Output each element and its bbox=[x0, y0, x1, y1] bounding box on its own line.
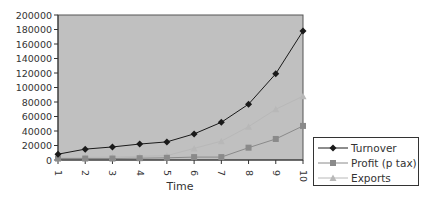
legend: Turnover Profit (p tax) Exports bbox=[313, 137, 419, 186]
square-marker-icon bbox=[318, 158, 348, 168]
x-tick-label: 8 bbox=[244, 170, 255, 176]
legend-item-exports: Exports bbox=[318, 170, 418, 185]
data-point bbox=[191, 154, 197, 160]
x-tick-label: 5 bbox=[162, 170, 173, 176]
y-tick-label: 0 bbox=[46, 155, 52, 166]
y-tick-label: 20000 bbox=[22, 140, 52, 151]
y-tick-label: 80000 bbox=[22, 97, 52, 108]
x-tick-label: 10 bbox=[298, 170, 309, 182]
y-tick-label: 100000 bbox=[16, 82, 52, 93]
x-axis-title: Time bbox=[166, 180, 194, 193]
x-tick-label: 3 bbox=[107, 170, 118, 176]
y-axis: 0200004000060000800001000001200001400001… bbox=[16, 10, 58, 166]
data-point bbox=[137, 155, 143, 161]
y-tick-label: 60000 bbox=[22, 111, 52, 122]
x-axis: 12345678910 bbox=[53, 160, 309, 182]
legend-label: Profit (p tax) bbox=[351, 157, 417, 169]
x-tick-label: 2 bbox=[80, 170, 91, 176]
y-tick-label: 140000 bbox=[16, 53, 52, 64]
x-tick-label: 9 bbox=[271, 170, 282, 176]
x-tick-label: 1 bbox=[53, 170, 64, 176]
y-tick-label: 180000 bbox=[16, 24, 52, 35]
data-point bbox=[218, 154, 224, 160]
data-point bbox=[109, 156, 115, 162]
triangle-marker-icon bbox=[318, 173, 348, 183]
data-point bbox=[164, 155, 170, 161]
x-tick-label: 4 bbox=[135, 170, 146, 176]
y-tick-label: 40000 bbox=[22, 126, 52, 137]
y-tick-label: 160000 bbox=[16, 39, 52, 50]
legend-label: Exports bbox=[351, 172, 391, 184]
data-point bbox=[82, 156, 88, 162]
legend-label: Turnover bbox=[351, 142, 397, 154]
diamond-marker-icon bbox=[318, 143, 348, 153]
data-point bbox=[273, 136, 279, 142]
legend-item-profit: Profit (p tax) bbox=[318, 155, 418, 170]
y-tick-label: 120000 bbox=[16, 68, 52, 79]
data-point bbox=[246, 145, 252, 151]
data-point bbox=[300, 123, 306, 129]
y-tick-label: 200000 bbox=[16, 10, 52, 21]
x-tick-label: 7 bbox=[216, 170, 227, 176]
legend-item-turnover: Turnover bbox=[318, 140, 418, 155]
x-tick-label: 6 bbox=[189, 170, 200, 176]
